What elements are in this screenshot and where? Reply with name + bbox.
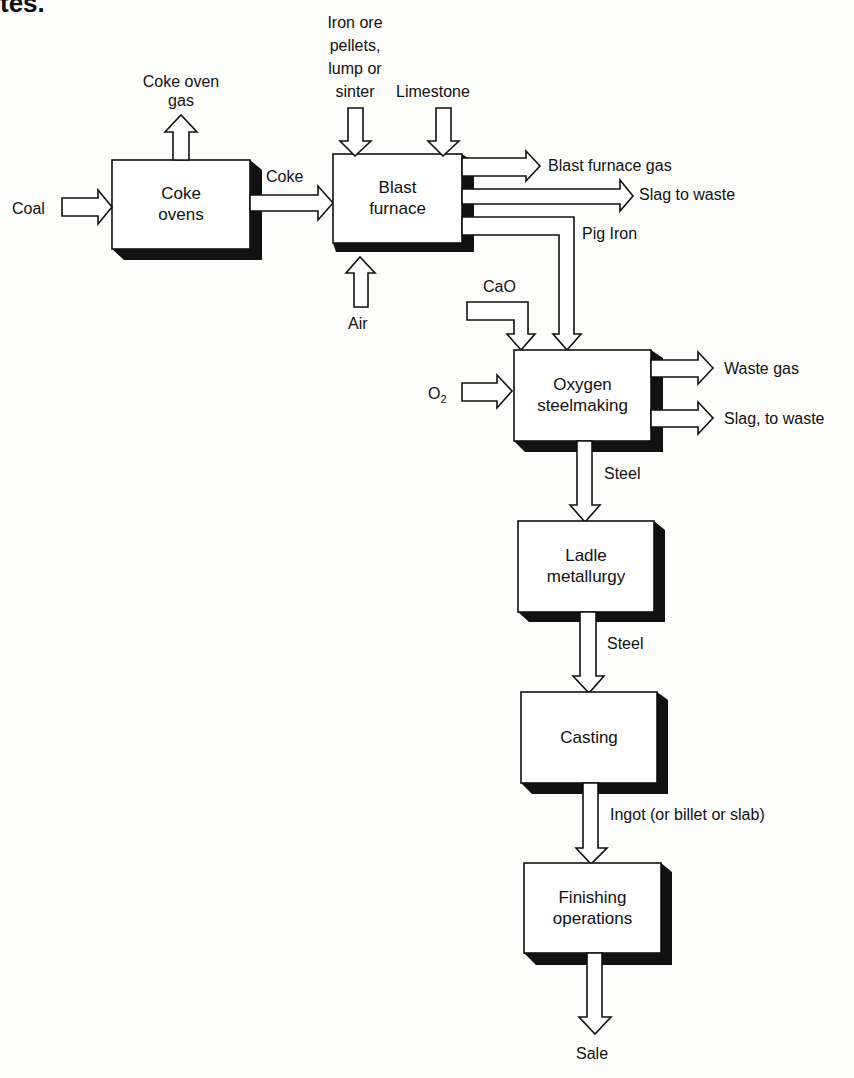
steel-label-2: Steel — [607, 634, 643, 653]
blast-furnace-gas-arrow — [462, 151, 540, 181]
coke-label: Coke — [266, 167, 303, 186]
slag-to-waste-label: Slag to waste — [639, 185, 735, 204]
label-line: operations — [524, 908, 661, 929]
waste-gas-label: Waste gas — [724, 359, 799, 378]
coke-oven-gas-arrow — [165, 115, 197, 160]
blast-furnace-gas-label: Blast furnace gas — [548, 156, 672, 175]
label-line: furnace — [333, 198, 462, 219]
slag-to-waste-arrow — [462, 180, 633, 211]
label-line: Ladle — [518, 545, 654, 566]
label-line: Coke — [112, 183, 250, 204]
label-line: Casting — [521, 727, 657, 748]
oxygen-steelmaking-label: Oxygen steelmaking — [514, 374, 651, 416]
limestone-label: Limestone — [396, 82, 470, 101]
coal-arrow — [62, 190, 112, 224]
cao-arrow — [467, 302, 535, 350]
label-line: gas — [120, 91, 242, 110]
iron-ore-arrow — [340, 108, 371, 156]
label-line: Blast — [333, 177, 462, 198]
slag-comma-to-waste-label: Slag, to waste — [724, 409, 825, 428]
label-line: ovens — [112, 204, 250, 225]
coal-label: Coal — [12, 199, 45, 218]
label-line: Oxygen — [514, 374, 651, 395]
air-label: Air — [348, 314, 368, 333]
air-arrow — [346, 257, 375, 307]
sale-label: Sale — [576, 1044, 608, 1063]
coke-arrow — [250, 186, 333, 220]
iron-ore-label: Iron ore pellets, lump or sinter — [315, 11, 395, 103]
label-line: Iron ore — [315, 11, 395, 34]
o2-subscript: 2 — [440, 393, 446, 405]
steel-arrow-2 — [573, 612, 604, 693]
label-line: pellets, — [315, 34, 395, 57]
o2-base: O — [428, 385, 440, 402]
pig-iron-label: Pig Iron — [582, 224, 637, 243]
process-flow-diagram: .ar { fill: #fff; stroke: #111; stroke-w… — [0, 0, 854, 1078]
cao-label: CaO — [483, 277, 516, 296]
label-line: steelmaking — [514, 395, 651, 416]
ingot-arrow — [576, 783, 607, 864]
label-line: lump or — [315, 57, 395, 80]
ingot-label: Ingot (or billet or slab) — [610, 805, 765, 824]
label-line: metallurgy — [518, 566, 654, 587]
steel-arrow-1 — [570, 441, 600, 522]
label-line: Finishing — [524, 887, 661, 908]
finishing-operations-label: Finishing operations — [524, 887, 661, 929]
casting-label: Casting — [521, 727, 657, 748]
coke-ovens-label: Coke ovens — [112, 183, 250, 225]
steel-label-1: Steel — [604, 464, 640, 483]
blast-furnace-label: Blast furnace — [333, 177, 462, 219]
o2-label: O2 — [428, 384, 447, 409]
limestone-arrow — [428, 108, 459, 156]
coke-oven-gas-label: Coke oven gas — [120, 72, 242, 110]
sale-arrow — [579, 953, 611, 1034]
label-line: Coke oven — [120, 72, 242, 91]
label-line: sinter — [315, 80, 395, 103]
ladle-metallurgy-label: Ladle metallurgy — [518, 545, 654, 587]
o2-arrow — [462, 375, 512, 408]
